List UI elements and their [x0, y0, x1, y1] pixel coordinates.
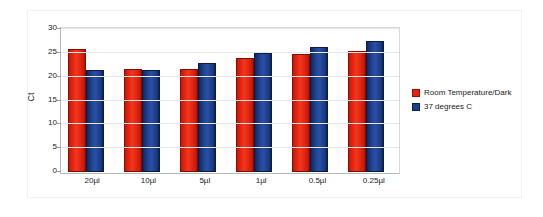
x-axis-tick-label: 5µl: [174, 176, 230, 185]
y-axis-tick: [57, 147, 61, 148]
legend-label: Room Temperature/Dark: [424, 88, 511, 97]
y-axis-tick: [57, 123, 61, 124]
y-axis-tick-label: 0: [35, 166, 57, 175]
bar[interactable]: [142, 70, 160, 172]
gridline: [61, 76, 399, 77]
bar[interactable]: [68, 49, 86, 172]
x-axis-tick-label: 0.5µl: [286, 176, 342, 185]
legend-item[interactable]: Room Temperature/Dark: [412, 88, 511, 97]
bar[interactable]: [86, 70, 104, 172]
gridline: [61, 147, 399, 148]
bar[interactable]: [180, 69, 198, 172]
gridline: [61, 100, 399, 101]
y-axis-tick-label: 10: [35, 118, 57, 127]
y-axis-tick-label: 15: [35, 95, 57, 104]
y-axis-tick: [57, 76, 61, 77]
bar[interactable]: [310, 47, 328, 172]
x-axis-tick-label: 10µl: [117, 176, 173, 185]
y-axis-tick-label: 20: [35, 71, 57, 80]
y-axis-tick-label: 25: [35, 47, 57, 56]
legend-item[interactable]: 37 degrees C: [412, 102, 511, 111]
legend-label: 37 degrees C: [424, 102, 472, 111]
y-axis-tick: [57, 28, 61, 29]
legend-swatch-icon: [412, 89, 420, 97]
gridline: [61, 123, 399, 124]
y-axis-tick: [57, 171, 61, 172]
y-axis-tick: [57, 100, 61, 101]
bar[interactable]: [366, 41, 384, 172]
bar[interactable]: [254, 53, 272, 172]
x-axis-tick-label: 1µl: [230, 176, 286, 185]
bar[interactable]: [198, 63, 216, 172]
gridline: [61, 52, 399, 53]
bar[interactable]: [348, 51, 366, 172]
x-axis-tick-label: 0.25µl: [343, 176, 399, 185]
chart-legend: Room Temperature/Dark37 degrees C: [412, 88, 511, 111]
x-axis-tick-label: 20µl: [61, 176, 117, 185]
plot-area: [60, 27, 400, 174]
y-axis-tick-label: 30: [35, 23, 57, 32]
bar-chart: Ct 302520151050 20µl10µl5µl1µl0.5µl0.25µ…: [0, 0, 543, 217]
x-axis-tick-labels: 20µl10µl5µl1µl0.5µl0.25µl: [61, 176, 399, 185]
gridline: [61, 28, 399, 29]
y-axis-tick: [57, 52, 61, 53]
legend-swatch-icon: [412, 103, 420, 111]
y-axis-tick-labels: 302520151050: [33, 27, 57, 174]
bar[interactable]: [292, 54, 310, 172]
bar[interactable]: [124, 69, 142, 172]
y-axis-tick-label: 5: [35, 142, 57, 151]
